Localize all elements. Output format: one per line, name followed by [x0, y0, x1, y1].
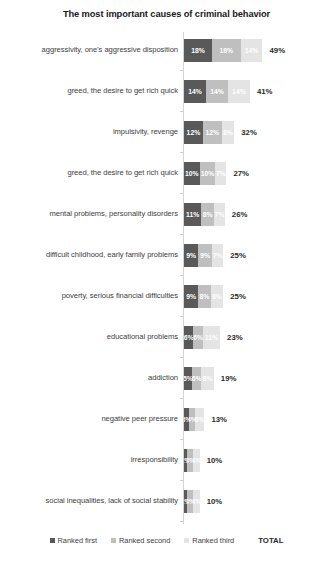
- bar-segment-value: 6%: [195, 416, 204, 423]
- bar-segment-value: 11%: [185, 211, 200, 218]
- bar-segment-value: 7%: [214, 211, 225, 218]
- chart-row: educational problems6%6%11%23%: [0, 317, 333, 358]
- bar-segment-value: 10%: [184, 170, 200, 177]
- bar-segment-value: 7%: [215, 170, 226, 177]
- bar-segment-value: 4%: [193, 498, 199, 505]
- row-total-value: 23%: [227, 326, 243, 349]
- axis-tick: [180, 521, 184, 522]
- bar-segment-value: 6%: [193, 334, 202, 341]
- legend-swatch-ranked-third: [184, 538, 189, 543]
- category-label: addiction: [10, 358, 178, 399]
- bar-segment-value: 14%: [244, 47, 260, 54]
- row-total-value: 19%: [221, 367, 237, 390]
- chart-row: impulsivity, revenge12%12%8%32%: [0, 112, 333, 153]
- chart-row: negative peer pressure3%4%6%13%: [0, 399, 333, 440]
- bar-segment: 14%: [184, 80, 206, 103]
- bar-segment: 11%: [203, 326, 220, 349]
- legend-label-ranked-third: Ranked third: [192, 536, 234, 545]
- bar-segment: 5%: [184, 367, 192, 390]
- bar-segment: 10%: [184, 162, 200, 185]
- legend-label-ranked-second: Ranked second: [119, 536, 170, 545]
- bar-segment-value: 18%: [190, 47, 206, 54]
- bar-segment-value: 14%: [187, 88, 203, 95]
- row-total-value: 27%: [233, 162, 249, 185]
- bar-segment: 4%: [193, 490, 199, 513]
- bar-segment-value: 9%: [185, 252, 197, 259]
- bar-segment-value: 8%: [202, 375, 214, 382]
- legend-item-ranked-first: Ranked first: [50, 536, 97, 545]
- chart-row: social inequalities, lack of social stab…: [0, 481, 333, 522]
- row-total-value: 25%: [230, 285, 246, 308]
- legend-item-ranked-third: Ranked third: [184, 536, 234, 545]
- bar-segment: 14%: [241, 39, 263, 62]
- stacked-bar: 11%8%7%: [184, 203, 225, 226]
- legend-total-header: TOTAL: [258, 536, 283, 545]
- bar-segment: 10%: [200, 162, 216, 185]
- bar-segment: 6%: [193, 326, 202, 349]
- stacked-bar: 12%12%8%: [184, 121, 234, 144]
- stacked-bar: 9%8%8%: [184, 285, 223, 308]
- bar-segment-value: 8%: [202, 211, 214, 218]
- bar-segment: 6%: [184, 326, 193, 349]
- chart-row: greed, the desire to get rich quick10%10…: [0, 153, 333, 194]
- legend-swatch-ranked-first: [50, 538, 55, 543]
- chart-row: greed, the desire to get rich quick14%14…: [0, 71, 333, 112]
- chart-legend: Ranked first Ranked second Ranked third …: [0, 536, 333, 545]
- bar-segment-value: 6%: [184, 334, 193, 341]
- legend-label-ranked-first: Ranked first: [58, 536, 97, 545]
- chart-row: irresponsibility2%4%4%10%: [0, 440, 333, 481]
- bar-segment-value: 4%: [193, 457, 199, 464]
- stacked-bar: 14%14%14%: [184, 80, 250, 103]
- category-label: impulsivity, revenge: [10, 112, 178, 153]
- bar-segment: 8%: [201, 367, 214, 390]
- bar-segment: 11%: [184, 203, 201, 226]
- category-label: social inequalities, lack of social stab…: [10, 481, 178, 522]
- bar-segment-value: 12%: [204, 129, 220, 136]
- row-total-value: 13%: [211, 408, 227, 431]
- category-label: mental problems, personality disorders: [10, 194, 178, 235]
- legend-item-ranked-second: Ranked second: [111, 536, 170, 545]
- row-total-value: 41%: [257, 80, 273, 103]
- chart-plot-area: aggressivity, one's aggressive dispositi…: [0, 30, 333, 530]
- chart-row: poverty, serious financial difficulties9…: [0, 276, 333, 317]
- bar-segment-value: 14%: [209, 88, 225, 95]
- stacked-bar: 5%6%8%: [184, 367, 214, 390]
- chart-row: difficult childhood, early family proble…: [0, 235, 333, 276]
- category-label: difficult childhood, early family proble…: [10, 235, 178, 276]
- bar-segment-value: 8%: [211, 293, 223, 300]
- stacked-bar: 9%9%7%: [184, 244, 223, 267]
- chart-row: aggressivity, one's aggressive dispositi…: [0, 30, 333, 71]
- row-total-value: 25%: [230, 244, 246, 267]
- bar-segment-value: 8%: [222, 129, 234, 136]
- row-total-value: 10%: [207, 449, 223, 472]
- row-total-value: 32%: [241, 121, 257, 144]
- category-label: irresponsibility: [10, 440, 178, 481]
- category-label: poverty, serious financial difficulties: [10, 276, 178, 317]
- bar-segment-value: 10%: [200, 170, 216, 177]
- bar-segment: 12%: [203, 121, 222, 144]
- bar-segment-value: 6%: [192, 375, 201, 382]
- bar-segment: 6%: [195, 408, 204, 431]
- bar-segment: 7%: [214, 203, 225, 226]
- bar-segment: 9%: [198, 244, 212, 267]
- bar-segment: 14%: [206, 80, 228, 103]
- stacked-bar: 2%4%4%: [184, 449, 200, 472]
- category-label: educational problems: [10, 317, 178, 358]
- bar-segment-value: 18%: [219, 47, 235, 54]
- bar-segment: 18%: [184, 39, 212, 62]
- chart-title: The most important causes of criminal be…: [0, 9, 333, 19]
- stacked-bar: 2%4%4%: [184, 490, 200, 513]
- bar-segment: 9%: [184, 244, 198, 267]
- bar-segment: 14%: [228, 80, 250, 103]
- chart-row: addiction5%6%8%19%: [0, 358, 333, 399]
- bar-segment-value: 11%: [204, 334, 219, 341]
- category-label: greed, the desire to get rich quick: [10, 153, 178, 194]
- bar-segment: 8%: [201, 203, 214, 226]
- stacked-bar: 10%10%7%: [184, 162, 226, 185]
- bar-segment-value: 9%: [199, 252, 211, 259]
- bar-segment: 9%: [184, 285, 198, 308]
- category-label: greed, the desire to get rich quick: [10, 71, 178, 112]
- bar-segment: 7%: [212, 244, 223, 267]
- bar-segment-value: 8%: [198, 293, 210, 300]
- bar-segment: 8%: [198, 285, 211, 308]
